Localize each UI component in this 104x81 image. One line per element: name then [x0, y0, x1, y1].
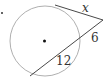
secant-external-label: 6	[91, 31, 99, 45]
tangent-label: x	[82, 1, 89, 15]
diagram-canvas: x 6 12	[0, 0, 104, 81]
bullet-dot	[1, 12, 3, 14]
tangent-segment	[55, 5, 103, 20]
center-point	[43, 40, 46, 43]
secant-internal-label: 12	[56, 54, 71, 68]
